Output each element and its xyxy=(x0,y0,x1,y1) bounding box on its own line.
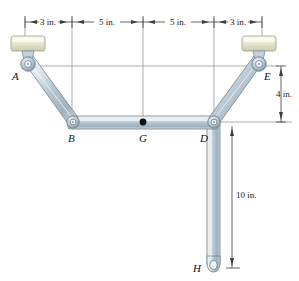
load-point-G xyxy=(140,119,147,126)
member-DH xyxy=(207,118,220,272)
pin-joint-A xyxy=(21,57,35,71)
point-label-H: H xyxy=(192,262,202,274)
point-label-D: D xyxy=(199,132,208,144)
dim-5in-right-label: 5 in. xyxy=(170,17,186,27)
dim-4in: 4 in. xyxy=(276,66,292,122)
eye-hole-H xyxy=(210,261,217,270)
dim-10in-label: 10 in. xyxy=(236,190,257,200)
pin-joint-B xyxy=(67,116,79,128)
dim-3in-left-label: 3 in. xyxy=(40,17,56,27)
point-label-A: A xyxy=(11,70,19,82)
dim-3in-left: 3 in. xyxy=(25,17,72,27)
point-label-E: E xyxy=(263,70,271,82)
dim-4in-label: 4 in. xyxy=(276,89,292,99)
horizontal-dimension-chain: 3 in. 5 in. 5 in. xyxy=(25,16,262,28)
dim-3in-right: 3 in. xyxy=(214,17,262,27)
mechanics-figure: 3 in. 5 in. 5 in. xyxy=(0,0,299,281)
point-label-B: B xyxy=(68,132,75,144)
pin-joint-D xyxy=(208,116,220,128)
point-label-G: G xyxy=(139,132,147,144)
dim-10in: 10 in. xyxy=(226,126,257,268)
dim-3in-right-label: 3 in. xyxy=(230,17,246,27)
dim-5in-left: 5 in. xyxy=(72,17,143,27)
dim-5in-left-label: 5 in. xyxy=(99,17,115,27)
dim-5in-right: 5 in. xyxy=(143,17,214,27)
